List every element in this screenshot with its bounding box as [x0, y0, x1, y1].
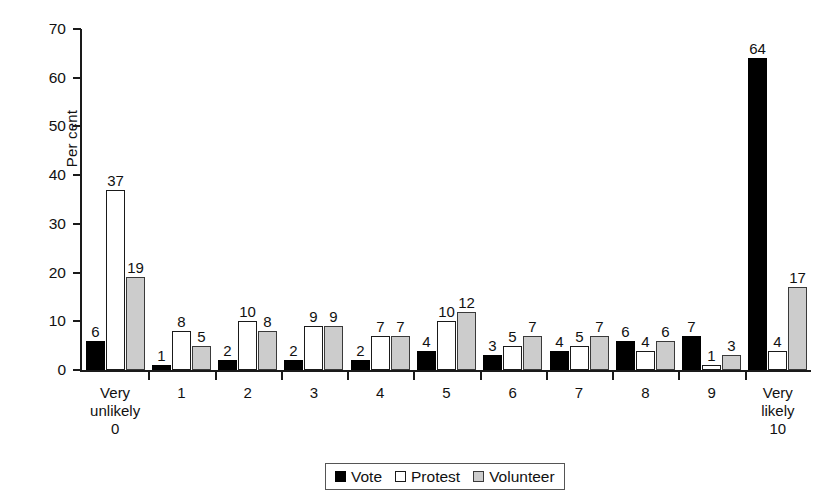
legend-swatch-volunteer-icon [473, 471, 484, 482]
bar-protest [570, 346, 589, 370]
bar-value-label: 7 [385, 319, 416, 334]
x-axis-line [80, 370, 811, 372]
y-tick [73, 125, 81, 127]
y-tick [73, 320, 81, 322]
bar-value-label: 7 [676, 319, 707, 334]
bar-volunteer [788, 287, 807, 370]
bar-vote [284, 360, 303, 370]
chart-legend: Vote Protest Volunteer [325, 463, 565, 490]
y-tick-label: 0 [38, 362, 66, 378]
x-tick [215, 372, 217, 380]
legend-label-vote: Vote [351, 468, 382, 486]
y-tick-label: 40 [38, 167, 66, 183]
bar-vote [351, 360, 370, 370]
y-tick-label: 60 [38, 70, 66, 86]
x-category-label: Very likely 10 [733, 384, 823, 438]
y-tick [73, 272, 81, 274]
y-tick-label: 50 [38, 118, 66, 134]
y-tick-label: 10 [38, 313, 66, 329]
bar-value-label: 5 [186, 329, 217, 344]
bar-value-label: 64 [742, 41, 773, 56]
bar-protest [371, 336, 390, 370]
bar-vote [218, 360, 237, 370]
x-tick [745, 372, 747, 380]
bar-volunteer [192, 346, 211, 370]
bar-value-label: 7 [517, 319, 548, 334]
legend-item-protest: Protest [395, 468, 460, 486]
bar-vote [417, 351, 436, 370]
bar-value-label: 17 [782, 270, 813, 285]
x-tick [281, 372, 283, 380]
bar-protest [106, 190, 125, 370]
x-tick [612, 372, 614, 380]
bar-protest [636, 351, 655, 370]
bar-volunteer [324, 326, 343, 370]
x-tick [413, 372, 415, 380]
bar-volunteer [523, 336, 542, 370]
legend-label-protest: Protest [411, 468, 460, 486]
bar-volunteer [126, 277, 145, 370]
bar-vote [483, 355, 502, 370]
x-tick [148, 372, 150, 380]
legend-swatch-vote-icon [335, 471, 346, 482]
y-tick [73, 77, 81, 79]
y-tick-label: 70 [38, 21, 66, 37]
bar-volunteer [457, 312, 476, 370]
x-tick [347, 372, 349, 380]
bar-protest [702, 365, 721, 370]
bar-value-label: 8 [166, 314, 197, 329]
bar-volunteer [590, 336, 609, 370]
bar-volunteer [656, 341, 675, 370]
y-tick [73, 174, 81, 176]
bar-volunteer [722, 355, 741, 370]
bar-protest [503, 346, 522, 370]
bar-protest [437, 321, 456, 370]
bar-vote [550, 351, 569, 370]
legend-swatch-protest-icon [395, 471, 406, 482]
x-tick [546, 372, 548, 380]
bar-protest [768, 351, 787, 370]
bar-value-label: 37 [100, 173, 131, 188]
bar-volunteer [391, 336, 410, 370]
y-axis-title: Per cent [63, 74, 80, 204]
legend-label-volunteer: Volunteer [489, 468, 555, 486]
x-tick [678, 372, 680, 380]
y-tick-label: 30 [38, 216, 66, 232]
bar-vote [748, 58, 767, 370]
bar-value-label: 3 [716, 338, 747, 353]
x-tick [480, 372, 482, 380]
bar-vote [152, 365, 171, 370]
bar-protest [304, 326, 323, 370]
bar-value-label: 12 [451, 295, 482, 310]
legend-item-volunteer: Volunteer [473, 468, 555, 486]
bar-value-label: 9 [318, 309, 349, 324]
y-tick [73, 223, 81, 225]
y-tick-label: 20 [38, 265, 66, 281]
bar-vote [86, 341, 105, 370]
bar-value-label: 19 [120, 260, 151, 275]
legend-item-vote: Vote [335, 468, 382, 486]
bar-value-label: 8 [252, 314, 283, 329]
y-tick [73, 28, 81, 30]
bar-chart: Per cent 010203040506070 Very unlikely 0… [0, 0, 828, 503]
bar-volunteer [258, 331, 277, 370]
